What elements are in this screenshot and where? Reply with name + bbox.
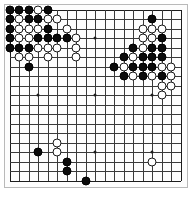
- white-stone[interactable]: [119, 62, 128, 71]
- black-stone[interactable]: [15, 43, 24, 52]
- black-stone[interactable]: [148, 53, 157, 62]
- white-stone[interactable]: [148, 157, 157, 166]
- black-stone[interactable]: [34, 15, 43, 24]
- white-stone[interactable]: [34, 43, 43, 52]
- white-stone[interactable]: [148, 72, 157, 81]
- black-stone[interactable]: [157, 43, 166, 52]
- white-stone[interactable]: [43, 15, 52, 24]
- white-stone[interactable]: [62, 24, 71, 33]
- white-stone[interactable]: [43, 53, 52, 62]
- black-stone[interactable]: [148, 15, 157, 24]
- white-stone[interactable]: [138, 34, 147, 43]
- black-stone[interactable]: [110, 62, 119, 71]
- black-stone[interactable]: [24, 62, 33, 71]
- board-gridline-horizontal: [10, 181, 181, 182]
- black-stone[interactable]: [157, 34, 166, 43]
- white-stone[interactable]: [53, 15, 62, 24]
- black-stone[interactable]: [5, 5, 14, 14]
- star-point: [37, 94, 40, 97]
- black-stone[interactable]: [62, 167, 71, 176]
- board-gridline-vertical: [171, 10, 172, 181]
- white-stone[interactable]: [157, 24, 166, 33]
- white-stone[interactable]: [138, 24, 147, 33]
- white-stone[interactable]: [34, 24, 43, 33]
- black-stone[interactable]: [15, 5, 24, 14]
- white-stone[interactable]: [15, 34, 24, 43]
- white-stone[interactable]: [53, 138, 62, 147]
- black-stone[interactable]: [157, 72, 166, 81]
- white-stone[interactable]: [72, 43, 81, 52]
- white-stone[interactable]: [72, 34, 81, 43]
- white-stone[interactable]: [34, 5, 43, 14]
- white-stone[interactable]: [15, 24, 24, 33]
- black-stone[interactable]: [119, 53, 128, 62]
- white-stone[interactable]: [167, 72, 176, 81]
- black-stone[interactable]: [148, 62, 157, 71]
- board-gridline-horizontal: [10, 171, 181, 172]
- board-gridline-vertical: [105, 10, 106, 181]
- board-gridline-vertical: [114, 10, 115, 181]
- black-stone[interactable]: [157, 53, 166, 62]
- white-stone[interactable]: [24, 24, 33, 33]
- board-gridline-horizontal: [10, 143, 181, 144]
- star-point: [151, 94, 154, 97]
- black-stone[interactable]: [43, 24, 52, 33]
- black-stone[interactable]: [43, 5, 52, 14]
- black-stone[interactable]: [62, 34, 71, 43]
- white-stone[interactable]: [148, 24, 157, 33]
- white-stone[interactable]: [167, 62, 176, 71]
- black-stone[interactable]: [62, 157, 71, 166]
- white-stone[interactable]: [53, 148, 62, 157]
- go-board-screenshot: [0, 0, 192, 198]
- black-stone[interactable]: [5, 34, 14, 43]
- star-point: [94, 94, 97, 97]
- black-stone[interactable]: [138, 62, 147, 71]
- black-stone[interactable]: [34, 148, 43, 157]
- white-stone[interactable]: [129, 53, 138, 62]
- black-stone[interactable]: [43, 34, 52, 43]
- white-stone[interactable]: [157, 91, 166, 100]
- black-stone[interactable]: [5, 24, 14, 33]
- star-point: [94, 37, 97, 40]
- black-stone[interactable]: [34, 34, 43, 43]
- board-gridline-vertical: [181, 10, 182, 181]
- white-stone[interactable]: [148, 34, 157, 43]
- black-stone[interactable]: [5, 15, 14, 24]
- black-stone[interactable]: [129, 62, 138, 71]
- black-stone[interactable]: [129, 43, 138, 52]
- black-stone[interactable]: [24, 5, 33, 14]
- board-gridline-vertical: [133, 10, 134, 181]
- black-stone[interactable]: [138, 53, 147, 62]
- black-stone[interactable]: [53, 34, 62, 43]
- white-stone[interactable]: [157, 62, 166, 71]
- black-stone[interactable]: [24, 15, 33, 24]
- star-point: [151, 151, 154, 154]
- black-stone[interactable]: [5, 43, 14, 52]
- white-stone[interactable]: [53, 43, 62, 52]
- black-stone[interactable]: [119, 72, 128, 81]
- white-stone[interactable]: [15, 53, 24, 62]
- board-gridline-horizontal: [10, 133, 181, 134]
- black-stone[interactable]: [138, 72, 147, 81]
- white-stone[interactable]: [138, 43, 147, 52]
- white-stone[interactable]: [72, 53, 81, 62]
- white-stone[interactable]: [24, 53, 33, 62]
- board-gridline-horizontal: [10, 124, 181, 125]
- white-stone[interactable]: [15, 15, 24, 24]
- board-gridline-vertical: [124, 10, 125, 181]
- white-stone[interactable]: [24, 34, 33, 43]
- white-stone[interactable]: [43, 43, 52, 52]
- board-gridline-horizontal: [10, 105, 181, 106]
- black-stone[interactable]: [24, 43, 33, 52]
- go-board[interactable]: [0, 0, 192, 198]
- black-stone[interactable]: [81, 176, 90, 185]
- white-stone[interactable]: [129, 72, 138, 81]
- white-stone[interactable]: [157, 81, 166, 90]
- board-gridline-horizontal: [10, 114, 181, 115]
- white-stone[interactable]: [167, 81, 176, 90]
- star-point: [94, 151, 97, 154]
- black-stone[interactable]: [148, 43, 157, 52]
